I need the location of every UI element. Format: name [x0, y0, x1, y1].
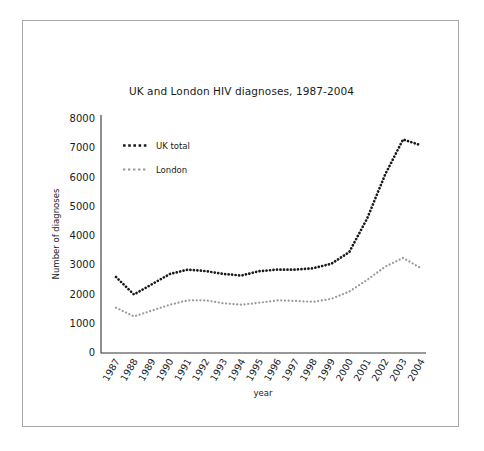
figure-frame: UK and London HIV diagnoses, 1987-2004 8… [22, 20, 459, 427]
x-tick-label: 2004 [405, 357, 427, 383]
legend-label-uk-total: UK total [156, 141, 190, 151]
x-tick-label: 1987 [100, 357, 122, 383]
y-axis-title-group: Number of diagnoses [51, 188, 61, 279]
y-tick-label: 7000 [70, 142, 95, 153]
x-tick-label: 1998 [297, 357, 319, 383]
x-tick-label: 1995 [244, 357, 266, 383]
x-tick-label: 1991 [172, 357, 194, 383]
y-tick-label: 2000 [70, 289, 95, 300]
x-tick-label: 2002 [369, 357, 391, 383]
x-tick-label: 1999 [315, 357, 337, 383]
x-tick-label: 1997 [280, 357, 302, 383]
axis-lines [101, 115, 426, 353]
y-tick-label: 4000 [70, 230, 95, 241]
legend: UK total London [123, 141, 190, 175]
y-axis-title: Number of diagnoses [51, 188, 61, 279]
y-tick-label: 1000 [70, 318, 95, 329]
x-axis-tick-labels: 1987198819891990199119921993199419951996… [100, 357, 427, 383]
series-line-london [116, 258, 421, 317]
series-line-uk-total [116, 139, 421, 294]
chart-canvas: 8000 7000 6000 5000 4000 3000 2000 1000 … [23, 21, 460, 428]
x-tick-label: 2001 [351, 357, 373, 383]
x-tick-label: 1988 [118, 357, 140, 383]
x-tick-label: 1990 [154, 357, 176, 383]
x-tick-label: 1996 [262, 357, 284, 383]
y-axis-tick-labels: 8000 7000 6000 5000 4000 3000 2000 1000 … [70, 113, 95, 358]
y-tick-label: 6000 [70, 172, 95, 183]
y-tick-label: 5000 [70, 201, 95, 212]
y-tick-label: 3000 [70, 259, 95, 270]
y-tick-label: 8000 [70, 113, 95, 124]
y-tick-label: 0 [89, 347, 95, 358]
x-tick-label: 1994 [226, 357, 248, 383]
legend-label-london: London [156, 165, 187, 175]
x-tick-label: 1989 [136, 357, 158, 383]
x-tick-label: 1993 [208, 357, 230, 383]
x-tick-label: 1992 [190, 357, 212, 383]
x-axis-title: year [254, 388, 273, 398]
x-tick-label: 2003 [387, 357, 409, 383]
x-tick-label: 2000 [333, 357, 355, 383]
